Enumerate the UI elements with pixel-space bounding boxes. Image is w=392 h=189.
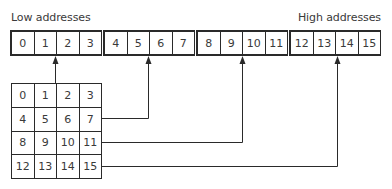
arrow-row-3 xyxy=(101,64,338,167)
arrow-row-1 xyxy=(101,64,149,119)
arrowhead-row-0-icon xyxy=(53,56,59,64)
arrowhead-row-1-icon xyxy=(146,56,152,64)
arrowhead-row-2-icon xyxy=(240,56,246,64)
arrowhead-row-3-icon xyxy=(335,56,341,64)
arrow-row-2 xyxy=(101,64,243,143)
arrows-layer xyxy=(0,0,392,189)
